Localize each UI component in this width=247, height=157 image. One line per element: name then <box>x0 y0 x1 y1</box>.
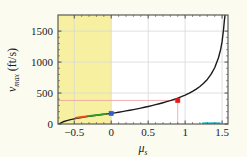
blue-marker <box>109 111 113 115</box>
x-tick-label: 1 <box>182 126 188 138</box>
plot-svg: −0.500.511.5 050010001500 μs vmax (ft/s) <box>0 0 247 157</box>
y-tick-label: 1500 <box>31 25 54 37</box>
y-tick-label: 1000 <box>31 56 54 68</box>
x-tick-label: −0.5 <box>64 126 84 138</box>
chart-figure: −0.500.511.5 050010001500 μs vmax (ft/s) <box>0 0 247 157</box>
x-tick-label: 0.5 <box>141 126 155 138</box>
y-tick-label: 500 <box>37 87 54 99</box>
red-marker <box>176 98 180 102</box>
x-tick-label: 1.5 <box>215 126 229 138</box>
x-tick-label: 0 <box>108 126 114 138</box>
y-tick-label: 0 <box>48 118 54 130</box>
